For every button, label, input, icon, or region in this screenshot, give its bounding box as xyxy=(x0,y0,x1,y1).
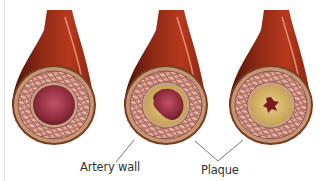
artery-diagram xyxy=(0,0,324,181)
artery-normal xyxy=(12,10,96,145)
lumen-open xyxy=(33,85,75,125)
label-artery-wall: Artery wall xyxy=(80,160,140,174)
leader-lines xyxy=(116,140,243,162)
plaque-leaders xyxy=(195,140,243,161)
label-plaque: Plaque xyxy=(201,163,239,177)
artery-severe-plaque xyxy=(229,10,313,145)
artery-wall-leader xyxy=(116,140,134,162)
artery-partial-plaque xyxy=(124,10,208,145)
